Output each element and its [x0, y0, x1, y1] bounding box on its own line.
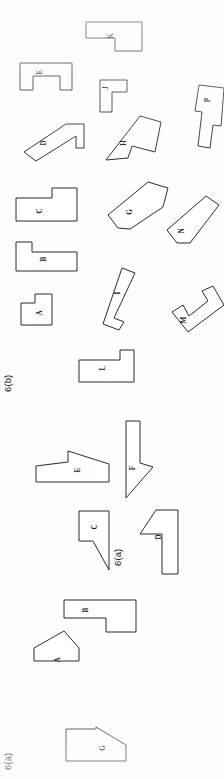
part-outline	[16, 242, 77, 271]
figure-canvas: KEJPDHCGNBAIMLEFCDBAG 6(b)6(a)6(a)	[0, 0, 224, 779]
part-outline	[16, 188, 77, 221]
polygon-part-i-6b: I	[103, 268, 135, 330]
caption-6a-bottom: 6(a)	[2, 753, 13, 770]
polygon-part-b-6a: B	[64, 600, 136, 632]
part-label-p: P	[204, 97, 212, 102]
part-outline	[66, 727, 126, 761]
part-label-a: A	[36, 310, 44, 316]
part-label-g: G	[126, 209, 134, 215]
part-label-m: M	[180, 316, 188, 323]
polygon-part-d-6a: D	[140, 510, 178, 574]
part-label-k: K	[107, 33, 115, 39]
polygon-part-f-6a: F	[126, 421, 153, 498]
part-label-i: I	[114, 291, 122, 294]
part-label-f: F	[129, 465, 137, 470]
polygon-part-l-6b: L	[79, 350, 134, 382]
polygon-part-p-6b: P	[195, 85, 224, 148]
polygon-part-c-6a: C	[79, 511, 109, 570]
polygon-part-b-6b: B	[16, 242, 77, 271]
part-outline	[140, 510, 178, 574]
polygon-part-j-6b: J	[100, 80, 127, 112]
polygon-part-a-6a: A	[34, 631, 79, 663]
part-label-d: D	[155, 534, 163, 539]
polygon-part-a-6b: A	[21, 294, 52, 325]
polygon-part-m-6b: M	[172, 286, 224, 332]
part-label-c: C	[36, 208, 44, 213]
part-label-n: N	[178, 228, 186, 234]
part-label-e: E	[36, 69, 44, 74]
part-outline	[79, 511, 109, 570]
part-outline	[21, 294, 52, 325]
caption-6b: 6(b)	[2, 375, 13, 392]
part-outline	[126, 421, 153, 498]
caption-6a-mid: 6(a)	[112, 549, 123, 566]
part-label-d: D	[40, 140, 48, 145]
polygon-part-n-6b: N	[167, 196, 219, 243]
part-label-c: C	[91, 524, 99, 529]
polygon-part-h-6b: H	[106, 116, 161, 160]
polygon-part-e-6a: E	[36, 451, 109, 482]
part-label-h: H	[120, 140, 128, 146]
polygon-part-g-6b: G	[108, 182, 168, 229]
part-label-a: A	[54, 657, 62, 663]
part-label-b: B	[82, 607, 90, 612]
part-outline	[36, 451, 109, 482]
part-outline	[24, 124, 84, 161]
polygon-part-e-6b: E	[20, 63, 72, 90]
part-label-l: L	[99, 365, 107, 370]
part-outline	[106, 116, 161, 160]
part-label-g: G	[99, 745, 107, 751]
polygon-part-d-6b: D	[24, 124, 84, 161]
polygon-part-g-6a: G	[66, 727, 126, 761]
part-outline	[103, 268, 135, 330]
part-outline	[108, 182, 168, 229]
part-outline	[172, 286, 224, 332]
captions-layer: 6(b)6(a)6(a)	[2, 375, 123, 770]
part-outline	[20, 63, 72, 90]
part-label-b: B	[40, 256, 48, 261]
part-outline	[34, 631, 79, 661]
part-outline	[167, 196, 219, 243]
part-outline	[195, 85, 224, 148]
part-label-e: E	[74, 467, 82, 472]
figure-page: KEJPDHCGNBAIMLEFCDBAG 6(b)6(a)6(a)	[0, 0, 224, 779]
parts-layer: KEJPDHCGNBAIMLEFCDBAG	[16, 22, 224, 761]
polygon-part-k-6b: K	[86, 22, 142, 51]
polygon-part-c-6b: C	[16, 188, 77, 221]
part-outline	[64, 600, 136, 632]
part-outline	[100, 80, 127, 112]
part-label-j: J	[102, 86, 110, 90]
